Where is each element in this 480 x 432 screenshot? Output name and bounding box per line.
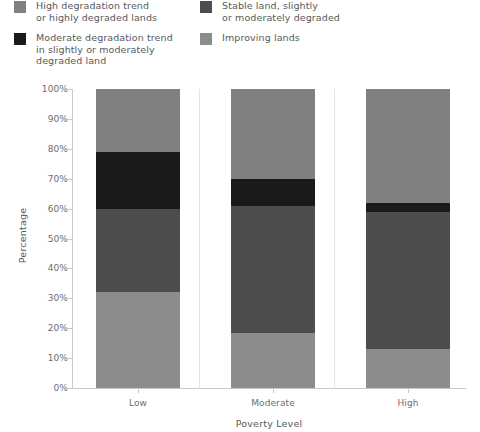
- bar-segment[interactable]: [96, 152, 180, 209]
- legend-label-stable-land: Stable land, slightly or moderately degr…: [222, 0, 385, 23]
- y-axis-tick-label: 10%: [0, 353, 68, 363]
- bar-segment[interactable]: [366, 349, 450, 388]
- y-axis-line: [72, 89, 73, 389]
- legend-swatch-improving-lands: [200, 33, 212, 45]
- bar-segment[interactable]: [96, 89, 180, 152]
- bar-high[interactable]: [366, 89, 450, 388]
- bar-segment[interactable]: [366, 203, 450, 212]
- bar-segment[interactable]: [231, 333, 315, 388]
- legend-swatch-high-degradation: [14, 1, 26, 13]
- bar-segment[interactable]: [231, 206, 315, 333]
- bar-moderate[interactable]: [231, 89, 315, 388]
- y-axis-tick-label: 0%: [0, 383, 68, 393]
- legend-swatch-stable-land: [200, 1, 212, 13]
- bar-segment[interactable]: [231, 179, 315, 206]
- facet-divider-1: [199, 89, 200, 389]
- y-axis-tick-label: 70%: [0, 174, 68, 184]
- bar-segment[interactable]: [366, 212, 450, 350]
- legend-column-2: Stable land, slightly or moderately degr…: [200, 0, 385, 55]
- chart-legend: High degradation trend or highly degrade…: [0, 0, 480, 80]
- bar-segment[interactable]: [96, 292, 180, 388]
- y-axis-tick-label: 90%: [0, 114, 68, 124]
- legend-swatch-moderate-degradation: [14, 33, 26, 45]
- bar-segment[interactable]: [231, 89, 315, 179]
- y-axis-tick-label: 100%: [0, 84, 68, 94]
- bar-segment[interactable]: [96, 209, 180, 293]
- x-axis-title: Poverty Level: [72, 418, 466, 429]
- legend-label-high-degradation: High degradation trend or highly degrade…: [36, 0, 199, 23]
- y-axis-tick-label: 30%: [0, 293, 68, 303]
- legend-item-stable-land: Stable land, slightly or moderately degr…: [200, 0, 385, 23]
- legend-item-high-degradation: High degradation trend or highly degrade…: [14, 0, 199, 23]
- y-axis-tick-label: 20%: [0, 323, 68, 333]
- y-axis-tick-label: 80%: [0, 144, 68, 154]
- y-axis-tick-label: 40%: [0, 263, 68, 273]
- legend-label-improving-lands: Improving lands: [222, 32, 385, 44]
- legend-label-moderate-degradation: Moderate degradation trend in slightly o…: [36, 32, 199, 67]
- legend-item-moderate-degradation: Moderate degradation trend in slightly o…: [14, 32, 199, 67]
- bar-low[interactable]: [96, 89, 180, 388]
- bar-segment[interactable]: [366, 89, 450, 203]
- x-axis-tick-mark: [273, 388, 274, 393]
- y-axis-tick-label: 60%: [0, 204, 68, 214]
- x-axis-tick-mark: [138, 388, 139, 393]
- x-axis-line: [72, 388, 466, 389]
- y-axis-tick-label: 50%: [0, 234, 68, 244]
- legend-column-1: High degradation trend or highly degrade…: [14, 0, 199, 76]
- facet-divider-2: [334, 89, 335, 389]
- legend-item-improving-lands: Improving lands: [200, 32, 385, 46]
- x-axis-label-low: Low: [78, 398, 198, 408]
- x-axis-tick-mark: [408, 388, 409, 393]
- chart-plot-area: Percentage 0%10%20%30%40%50%60%70%80%90%…: [0, 80, 480, 432]
- x-axis-label-moderate: Moderate: [213, 398, 333, 408]
- x-axis-label-high: High: [348, 398, 468, 408]
